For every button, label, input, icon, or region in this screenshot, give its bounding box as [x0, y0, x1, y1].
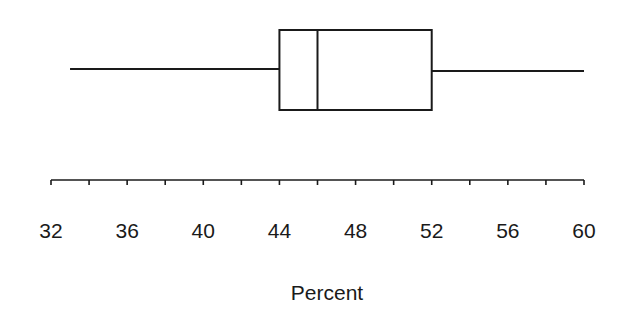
box-plot: [70, 30, 584, 110]
x-tick-label: 36: [115, 219, 138, 242]
boxplot-chart: 3236404448525660 Percent: [0, 0, 625, 324]
x-tick-label: 52: [420, 219, 443, 242]
x-axis-title: Percent: [291, 281, 364, 304]
interquartile-box: [279, 30, 431, 110]
x-axis: [51, 180, 584, 185]
x-tick-label: 56: [496, 219, 519, 242]
x-axis-tick-labels: 3236404448525660: [39, 219, 595, 242]
x-tick-label: 48: [344, 219, 367, 242]
x-tick-label: 44: [268, 219, 292, 242]
x-tick-label: 32: [39, 219, 62, 242]
x-tick-label: 40: [192, 219, 215, 242]
x-tick-label: 60: [572, 219, 595, 242]
